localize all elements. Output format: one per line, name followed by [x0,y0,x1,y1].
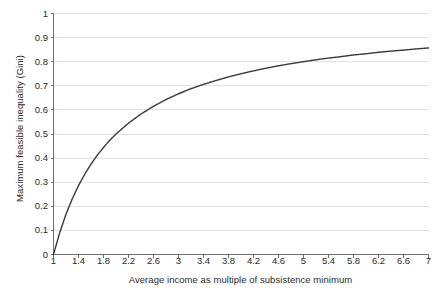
data-series-line [54,48,429,255]
x-tick-label: 5.4 [322,256,335,266]
x-tick-label: 4.6 [272,256,285,266]
y-tick-label: 0.3 [18,177,48,187]
x-tick-label: 2.2 [122,256,135,266]
x-tick-label: 3 [176,256,181,266]
y-tick-label: 0.8 [18,57,48,67]
x-tick-label: 2.6 [147,256,160,266]
x-axis-title: Average income as multiple of subsistenc… [53,274,428,285]
y-tick-label: 1 [18,9,48,19]
y-tick-label: 0.1 [18,226,48,236]
x-tick-label: 6.2 [372,256,385,266]
tick-marks [51,14,429,258]
gridlines [54,14,429,255]
y-tick-label: 0.7 [18,81,48,91]
y-tick-label: 0.6 [18,105,48,115]
x-tick-label: 6.6 [397,256,410,266]
plot-canvas [0,0,439,296]
x-tick-label: 3.8 [222,256,235,266]
y-tick-label: 0.9 [18,33,48,43]
x-tick-label: 4.2 [247,256,260,266]
x-tick-label: 5.8 [347,256,360,266]
x-tick-label: 1 [51,256,56,266]
y-tick-label: 0.4 [18,153,48,163]
x-tick-label: 5 [301,256,306,266]
x-tick-label: 3.4 [197,256,210,266]
y-tick-label: 0.5 [18,129,48,139]
y-tick-label: 0.2 [18,202,48,212]
chart-figure: Maximum feasible inequality (Gini) Avera… [0,0,439,296]
x-tick-label: 7 [426,256,431,266]
x-tick-label: 1.4 [72,256,85,266]
y-tick-label: 0 [18,250,48,260]
x-tick-label: 1.8 [97,256,110,266]
